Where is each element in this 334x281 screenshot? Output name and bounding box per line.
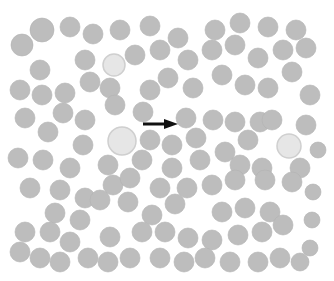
cell [15, 108, 35, 128]
cell [225, 35, 245, 55]
cell [90, 190, 110, 210]
cell [258, 17, 278, 37]
cell [118, 192, 138, 212]
cell [168, 28, 188, 48]
cell [8, 148, 28, 168]
cell [150, 178, 170, 198]
cell [286, 20, 306, 40]
cell [202, 175, 222, 195]
cell [195, 248, 215, 268]
cell [176, 108, 196, 128]
cell [212, 202, 232, 222]
cell [225, 112, 245, 132]
cell [258, 78, 278, 98]
cell [273, 40, 293, 60]
cell [70, 210, 90, 230]
cell [10, 80, 30, 100]
cell [262, 110, 282, 130]
cell [150, 248, 170, 268]
cell [186, 128, 206, 148]
cell [20, 178, 40, 198]
cell [98, 155, 118, 175]
cell [30, 248, 50, 268]
cell [83, 24, 103, 44]
cell [30, 18, 54, 42]
cell [248, 252, 268, 272]
cell [100, 227, 120, 247]
cell [225, 170, 245, 190]
cell [60, 232, 80, 252]
cell [33, 150, 53, 170]
micrograph [0, 0, 334, 281]
cell [174, 252, 194, 272]
cell [132, 150, 152, 170]
cell [10, 242, 30, 262]
cell [203, 110, 223, 130]
cell [220, 252, 240, 272]
cell [296, 115, 316, 135]
cell [142, 205, 162, 225]
cell [150, 40, 170, 60]
cell [55, 83, 75, 103]
cell [202, 40, 222, 60]
cell [50, 252, 70, 272]
cell [32, 85, 52, 105]
cell [310, 142, 326, 158]
cell [73, 135, 93, 155]
cell [45, 203, 65, 223]
cell [50, 180, 70, 200]
cell [155, 222, 175, 242]
cell [178, 50, 198, 70]
cell [38, 122, 58, 142]
cell [252, 222, 272, 242]
cell [273, 215, 293, 235]
cell [205, 20, 225, 40]
cell [212, 65, 232, 85]
cell [165, 194, 185, 214]
cell [183, 78, 203, 98]
cell [162, 158, 182, 178]
cell [228, 225, 248, 245]
cell [80, 72, 100, 92]
cell [125, 45, 145, 65]
cell [75, 110, 95, 130]
cell [238, 130, 258, 150]
cell [60, 17, 80, 37]
cell [40, 222, 60, 242]
cell [230, 13, 250, 33]
cell [78, 248, 98, 268]
cell [158, 68, 178, 88]
cell [296, 38, 316, 58]
cell [133, 102, 153, 122]
cell [305, 184, 321, 200]
cell [30, 60, 50, 80]
cell [132, 222, 152, 242]
cell [75, 50, 95, 70]
cell [235, 75, 255, 95]
cell [53, 103, 73, 123]
cell [120, 168, 140, 188]
cell [235, 198, 255, 218]
cell [120, 248, 140, 268]
cell [291, 253, 309, 271]
cell [15, 222, 35, 242]
cell [178, 228, 198, 248]
pale-cell [108, 127, 136, 155]
cell [98, 252, 118, 272]
cell [140, 80, 160, 100]
cell [302, 240, 318, 256]
cell [60, 158, 80, 178]
cell [282, 62, 302, 82]
cell [105, 95, 125, 115]
cell [140, 16, 160, 36]
cell [110, 20, 130, 40]
cell [162, 135, 182, 155]
cell [190, 150, 210, 170]
cell [248, 48, 268, 68]
cell [140, 130, 160, 150]
cell [282, 172, 302, 192]
cell [304, 212, 320, 228]
cell [270, 248, 290, 268]
pale-cell [277, 134, 301, 158]
pale-cell [103, 54, 125, 76]
